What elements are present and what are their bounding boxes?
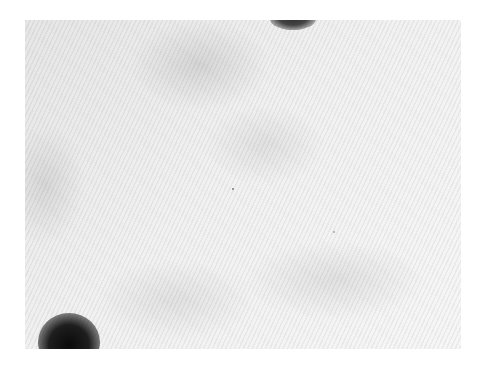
photo	[25, 20, 461, 349]
speck	[232, 188, 234, 190]
speck	[333, 231, 335, 233]
stripe-texture	[25, 20, 461, 349]
